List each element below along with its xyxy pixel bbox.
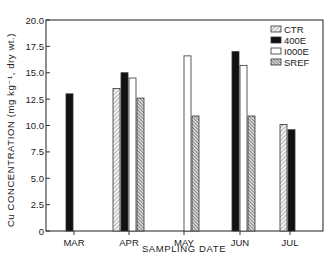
bar-chart: 02.55.07.510.012.515.017.520.0 MARAPRMAY… xyxy=(0,0,335,270)
bar-jun-1000e xyxy=(240,65,247,231)
x-tick-label-jul: JUL xyxy=(282,237,299,248)
y-tick-label: 20.0 xyxy=(26,15,45,26)
x-axis-title: SAMPLING DATE xyxy=(142,243,226,254)
bar-series-group xyxy=(66,52,295,231)
bar-apr-sref xyxy=(137,98,144,231)
legend-swatch-ctr xyxy=(271,26,281,32)
bar-jun-sref xyxy=(248,116,255,231)
bar-apr-1000e xyxy=(129,78,136,231)
chart-canvas: 02.55.07.510.012.515.017.520.0 MARAPRMAY… xyxy=(0,0,335,270)
y-tick-label: 2.5 xyxy=(31,199,44,210)
y-tick-label: 5.0 xyxy=(31,173,44,184)
legend-label-ctr: CTR xyxy=(284,24,304,35)
bar-apr-400e xyxy=(121,73,128,231)
bar-apr-ctr xyxy=(113,89,120,231)
bar-may-sref xyxy=(192,116,199,231)
x-tick-label-mar: MAR xyxy=(63,237,84,248)
y-tick-label: 10.0 xyxy=(26,120,45,131)
legend-swatch-1000e xyxy=(271,48,281,54)
bar-may-1000e xyxy=(184,56,191,231)
bar-jun-400e xyxy=(232,52,239,231)
x-tick-label-jun: JUN xyxy=(231,237,250,248)
bar-jul-400e xyxy=(288,130,295,231)
y-tick-label: 12.5 xyxy=(26,94,45,105)
x-tick-label-apr: APR xyxy=(119,237,139,248)
y-tick-label: 17.5 xyxy=(26,41,45,52)
legend-swatch-400e xyxy=(271,37,281,43)
legend-label-sref: SREF xyxy=(284,57,310,68)
y-axis-title: Cu CONCENTRATION (mg kg⁻¹, dry wt.) xyxy=(5,33,16,227)
y-tick-label: 7.5 xyxy=(31,146,44,157)
legend-label-1000e: I000E xyxy=(284,46,309,57)
bar-jul-ctr xyxy=(280,124,287,231)
y-tick-label: 15.0 xyxy=(26,67,45,78)
y-tick-label: 0 xyxy=(39,226,44,237)
legend: CTR400EI000ESREF xyxy=(271,24,310,68)
legend-label-400e: 400E xyxy=(284,35,306,46)
bar-mar-400e xyxy=(66,94,73,231)
legend-swatch-sref xyxy=(271,59,281,65)
